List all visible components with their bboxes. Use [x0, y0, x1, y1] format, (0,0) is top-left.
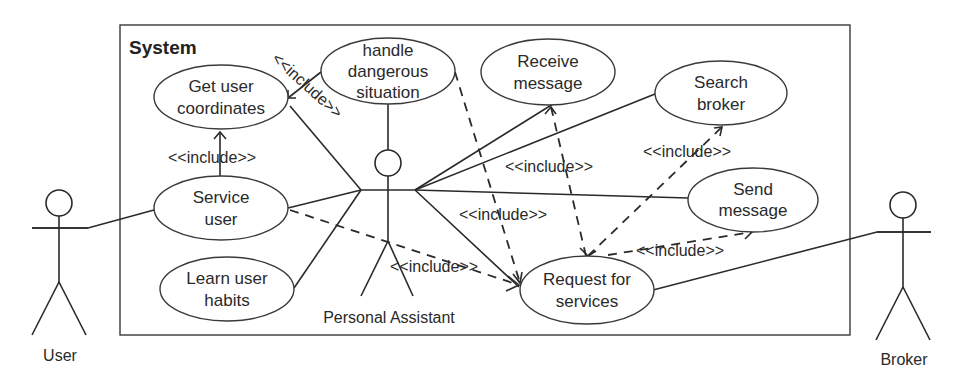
svg-text:Service: Service: [193, 188, 250, 207]
svg-text:Search: Search: [694, 73, 748, 92]
svg-text:Receive: Receive: [517, 52, 578, 71]
actor-label-broker: Broker: [880, 351, 928, 368]
svg-text:coordinates: coordinates: [177, 99, 265, 118]
actor-broker: Broker: [876, 192, 931, 368]
actor-user: User: [32, 190, 88, 364]
svg-text:Get user: Get user: [188, 77, 254, 96]
svg-text:user: user: [204, 210, 237, 229]
use-case-learn-user-habits: Learn user habits: [160, 257, 294, 321]
use-case-receive-message: Receive message: [481, 39, 615, 105]
actor-label-personal-assistant: Personal Assistant: [323, 309, 455, 326]
use-case-get-user-coordinates: Get user coordinates: [154, 65, 288, 129]
svg-text:dangerous: dangerous: [348, 62, 428, 81]
svg-text:situation: situation: [356, 83, 419, 102]
use-case-diagram: System <<include>> <<include>> <<include…: [0, 0, 957, 388]
include-label: <<include>>: [636, 242, 724, 259]
stick-figure-icon: [876, 192, 931, 340]
svg-text:broker: broker: [697, 95, 746, 114]
svg-text:message: message: [514, 74, 583, 93]
use-case-search-broker: Search broker: [655, 61, 787, 125]
include-label: <<include>>: [459, 206, 547, 223]
use-case-request-for-services: Request for services: [520, 256, 654, 324]
svg-text:handle: handle: [362, 41, 413, 60]
actor-label-user: User: [43, 347, 77, 364]
svg-text:Learn user: Learn user: [186, 269, 268, 288]
assoc-pa-receive-message: [415, 104, 553, 190]
include-label: <<include>>: [505, 158, 593, 175]
svg-text:services: services: [556, 292, 618, 311]
assoc-pa-search-broker: [415, 94, 655, 190]
assoc-pa-send-message: [415, 190, 688, 198]
include-label: <<include>>: [643, 143, 731, 160]
use-case-send-message: Send message: [688, 168, 818, 232]
include-label: <<include>>: [390, 258, 478, 275]
include-label: <<include>>: [168, 149, 256, 166]
svg-text:habits: habits: [204, 291, 249, 310]
svg-text:message: message: [719, 201, 788, 220]
assoc-pa-get-coordinates: [290, 106, 361, 190]
use-case-service-user: Service user: [154, 176, 288, 240]
svg-text:Send: Send: [733, 180, 773, 199]
include-handle-to-request: [455, 72, 520, 283]
stick-figure-icon: [32, 190, 88, 335]
system-label: System: [129, 37, 197, 58]
use-case-handle-dangerous-situation: handle dangerous situation: [321, 38, 455, 104]
svg-text:Request for: Request for: [543, 270, 631, 289]
